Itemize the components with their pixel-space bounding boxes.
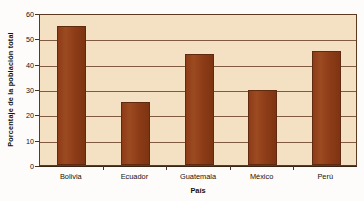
y-axis-title-text: Porcentaje de la población total [6,32,15,147]
y-tick-mark [35,115,39,116]
y-tick-mark [35,14,39,15]
gridline [40,40,356,41]
x-tick-label: Bolivia [60,172,82,181]
y-tick-mark [35,65,39,66]
y-tick-label: 50 [18,35,34,44]
x-tick-mark [293,166,294,170]
x-tick-mark [230,166,231,170]
plot-area [39,14,357,166]
x-tick-label: Ecuador [121,172,149,181]
bar [248,90,277,165]
y-tick-label: 20 [18,111,34,120]
y-tick-mark [35,141,39,142]
x-axis-line [39,166,357,167]
y-axis-tick-labels: 0102030405060 [18,8,34,173]
y-tick-label: 60 [18,10,34,19]
bar [185,54,214,165]
x-tick-mark [166,166,167,170]
x-tick-label: Perú [317,172,333,181]
y-tick-label: 40 [18,60,34,69]
x-tick-label: México [250,172,273,181]
x-axis-tick-labels: BoliviaEcuadorGuatemalaMéxicoPerú [39,172,357,184]
x-axis-title: País [39,186,357,195]
y-tick-label: 30 [18,86,34,95]
y-tick-mark [35,39,39,40]
bar-chart-figure: Porcentaje de la población total 0102030… [0,0,364,201]
y-axis-title: Porcentaje de la población total [2,12,18,167]
bar [121,102,150,165]
y-tick-label: 10 [18,136,34,145]
x-tick-mark [103,166,104,170]
y-tick-label: 0 [18,162,34,171]
bar [57,26,86,165]
bar [312,51,341,165]
y-tick-mark [35,166,39,167]
x-tick-label: Guatemala [180,172,216,181]
y-tick-mark [35,90,39,91]
plot-inner [40,15,356,165]
